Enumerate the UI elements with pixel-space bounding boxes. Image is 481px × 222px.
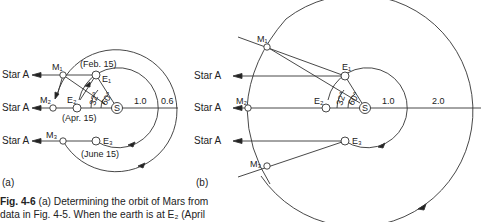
panel-b xyxy=(233,0,481,222)
point-e1-b xyxy=(341,72,349,80)
arrow-left-icon xyxy=(233,106,242,111)
label-e1-b: E₁ xyxy=(342,62,351,72)
arrow-icon xyxy=(55,92,59,99)
caption-line-1: Fig. 4-6 (a) Determining the orbit of Ma… xyxy=(0,196,240,209)
orbit-arrow-icon xyxy=(418,204,426,210)
sun-label-a: S xyxy=(114,103,120,113)
point-m2 xyxy=(50,105,56,111)
panel-a-label: (a) xyxy=(2,177,14,188)
star-label-b1: Star A xyxy=(194,70,222,81)
label-e2-b: E₂ xyxy=(314,96,324,106)
arrow-left-icon xyxy=(233,139,242,144)
label-m2-a: M₂ xyxy=(40,95,51,105)
star-label-b2: Star A xyxy=(194,102,222,113)
date-apr: (Apr. 15) xyxy=(62,113,97,123)
arrow-left-icon xyxy=(32,139,41,144)
label-e3-b: E₃ xyxy=(352,136,362,146)
point-m1-b xyxy=(264,44,270,50)
label-m3-a: M₃ xyxy=(46,130,57,140)
angle-60-b: 60° xyxy=(346,90,362,107)
dist-1-a: 1.0 xyxy=(134,96,147,106)
point-m3 xyxy=(60,138,66,144)
dist-2-b: 2.0 xyxy=(432,96,445,106)
e1-m1-line xyxy=(238,37,345,76)
point-m3-b xyxy=(264,163,270,169)
point-e2 xyxy=(73,104,81,112)
arrow-left-icon xyxy=(233,74,242,79)
label-m2-b: M₂ xyxy=(236,96,247,106)
point-e1 xyxy=(92,71,100,79)
label-e1-a: E₁ xyxy=(102,74,111,84)
star-label-b3: Star A xyxy=(194,135,222,146)
label-m3-b: M₃ xyxy=(250,159,261,169)
panel-b-label: (b) xyxy=(196,177,208,188)
dist-1-b: 1.0 xyxy=(382,96,395,106)
point-m1 xyxy=(60,72,66,78)
sun-label-b: S xyxy=(362,103,368,113)
caption-line-2: data in Fig. 4-5. When the earth is at E… xyxy=(0,209,240,222)
label-e2-a: E₂ xyxy=(67,95,77,105)
angle-32-a: 32° xyxy=(87,90,101,106)
star-label-a1: Star A xyxy=(2,69,30,80)
diagram-canvas: Star A Star A Star A M₁ M₂ M₃ E₁ E₂ E₃ (… xyxy=(0,0,481,222)
star-label-a3: Star A xyxy=(2,135,30,146)
caption-text-1: (a) Determining the orbit of Mars from xyxy=(36,196,209,207)
point-e3 xyxy=(92,137,100,145)
date-june: (June 15) xyxy=(81,149,119,159)
point-e3-b xyxy=(341,137,349,145)
label-m1-b: M₁ xyxy=(257,34,268,44)
arrow-left-icon xyxy=(32,73,41,78)
arrow-left-icon xyxy=(32,106,41,111)
figure-caption: Fig. 4-6 (a) Determining the orbit of Ma… xyxy=(0,196,240,221)
dist-2-a: 0.6 xyxy=(161,96,174,106)
date-feb: (Feb. 15) xyxy=(80,59,117,69)
angle-32-b: 32° xyxy=(334,90,348,106)
label-e3-a: E₃ xyxy=(103,136,113,146)
star-label-a2: Star A xyxy=(2,102,30,113)
orbit-arrow-icon xyxy=(378,143,385,148)
label-m1-a: M₁ xyxy=(52,62,63,72)
figure-number: Fig. 4-6 xyxy=(0,196,36,207)
